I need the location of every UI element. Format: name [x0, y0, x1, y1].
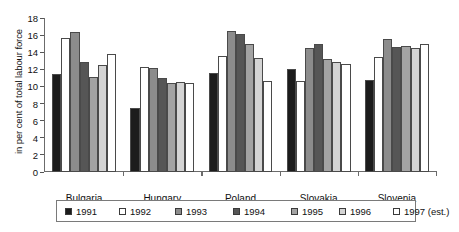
bar	[70, 32, 79, 172]
x-axis-group-tick	[123, 171, 124, 176]
bar	[305, 48, 314, 172]
bar	[130, 108, 139, 172]
legend-swatch-icon	[175, 208, 182, 215]
bar	[296, 81, 305, 172]
bar	[89, 77, 98, 172]
bar	[176, 82, 185, 172]
legend-item-1993[interactable]: 1993	[175, 206, 207, 217]
bar	[411, 48, 420, 172]
bar	[374, 57, 383, 172]
bar-group-bulgaria	[52, 18, 116, 172]
legend-label: 1991	[76, 206, 97, 217]
bar-group-poland	[209, 18, 273, 172]
legend-label: 1994	[244, 206, 265, 217]
legend-label: 1995	[302, 206, 323, 217]
bar	[61, 38, 70, 172]
bar	[401, 46, 410, 172]
legend-swatch-icon	[119, 208, 126, 215]
bar	[185, 83, 194, 172]
legend-item-1997-est-[interactable]: 1997 (est.)	[393, 206, 449, 217]
bar	[341, 64, 350, 172]
bar	[227, 31, 236, 172]
plot-area-wrapper: 024681012141618 BulgariaHungaryPolandSlo…	[22, 14, 436, 174]
bar-group-slovakia	[287, 18, 351, 172]
bar	[263, 81, 272, 172]
bar-group-slovenia	[365, 18, 429, 172]
bar	[314, 44, 323, 172]
y-axis-tick-label: 6	[20, 116, 38, 125]
legend-label: 1992	[130, 206, 151, 217]
bar	[236, 34, 245, 172]
legend-swatch-icon	[339, 208, 346, 215]
y-axis-tick-label: 16	[20, 31, 38, 40]
y-axis-tick-label: 10	[20, 82, 38, 91]
y-axis-tick-label: 12	[20, 65, 38, 74]
bar	[323, 59, 332, 172]
y-axis-tick-label: 18	[20, 14, 38, 23]
bar	[107, 54, 116, 172]
y-axis-tick-label: 14	[20, 48, 38, 57]
bar	[365, 80, 374, 172]
y-axis-tick-label: 8	[20, 99, 38, 108]
x-axis-group-tick	[436, 171, 437, 176]
bar	[80, 62, 89, 172]
bar	[140, 67, 149, 172]
bar	[254, 58, 263, 172]
x-axis-group-tick	[201, 171, 202, 176]
y-axis-tick-label: 2	[20, 150, 38, 159]
legend-item-1996[interactable]: 1996	[339, 206, 371, 217]
bar	[98, 65, 107, 172]
bar	[52, 74, 61, 172]
legend-swatch-icon	[393, 208, 400, 215]
x-axis-group-tick	[280, 171, 281, 176]
bar	[383, 39, 392, 172]
legend-swatch-icon	[65, 208, 72, 215]
bar	[420, 44, 429, 172]
bar	[218, 56, 227, 172]
y-axis-tick-label: 0	[20, 168, 38, 177]
legend-label: 1996	[350, 206, 371, 217]
legend-item-1992[interactable]: 1992	[119, 206, 151, 217]
bar	[245, 44, 254, 172]
legend-item-1995[interactable]: 1995	[291, 206, 323, 217]
legend-label: 1993	[186, 206, 207, 217]
legend-item-1994[interactable]: 1994	[233, 206, 265, 217]
legend-swatch-icon	[233, 208, 240, 215]
y-axis: 024681012141618	[22, 14, 44, 174]
bar	[392, 47, 401, 172]
bar	[158, 78, 167, 172]
x-axis-group-tick	[358, 171, 359, 176]
unemployment-bar-chart: in per cent of total labour force 024681…	[0, 0, 459, 232]
bar	[332, 62, 341, 172]
legend-label: 1997 (est.)	[404, 206, 449, 217]
bar-group-hungary	[130, 18, 194, 172]
legend-swatch-icon	[291, 208, 298, 215]
bar	[287, 69, 296, 172]
legend-item-1991[interactable]: 1991	[65, 206, 97, 217]
bar	[149, 68, 158, 172]
bar	[209, 73, 218, 172]
plot-area	[45, 18, 436, 172]
y-axis-tick-label: 4	[20, 133, 38, 142]
chart-legend: 1991199219931994199519961997 (est.)	[56, 200, 416, 222]
bar	[167, 83, 176, 172]
